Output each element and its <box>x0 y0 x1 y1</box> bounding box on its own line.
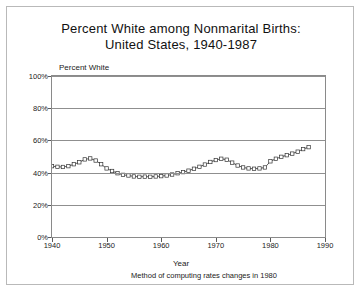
plot-area-wrapper: Percent White 0%20%40%60%80%100% 1940195… <box>7 7 355 286</box>
data-point-marker <box>269 160 272 163</box>
y-axis-title: Percent White <box>59 63 109 72</box>
data-point-marker <box>61 165 64 168</box>
x-axis-labels: 194019501960197019801990 <box>7 241 355 255</box>
data-point-marker <box>274 157 277 160</box>
data-point-marker <box>192 167 195 170</box>
figure-frame: Percent White among Nonmarital Births: U… <box>6 6 354 285</box>
data-point-marker <box>187 169 190 172</box>
data-point-marker <box>78 161 81 164</box>
x-tick-label-1980: 1980 <box>262 241 279 250</box>
data-point-marker <box>203 163 206 166</box>
x-axis-title: Year <box>7 259 355 268</box>
x-tick-label-1960: 1960 <box>153 241 170 250</box>
x-tick-label-1990: 1990 <box>317 241 334 250</box>
data-point-marker <box>263 166 266 169</box>
data-point-marker <box>52 164 54 167</box>
data-point-marker <box>291 152 294 155</box>
data-point-marker <box>143 175 146 178</box>
data-point-marker <box>138 175 141 178</box>
data-point-marker <box>165 174 168 177</box>
x-tick-label-1940: 1940 <box>44 241 61 250</box>
data-point-marker <box>83 158 86 161</box>
data-point-marker <box>127 174 130 177</box>
data-point-marker <box>241 166 244 169</box>
x-tick-label-1950: 1950 <box>98 241 115 250</box>
data-series-percent-white <box>52 76 325 237</box>
data-point-marker <box>301 147 304 150</box>
data-point-marker <box>89 157 92 160</box>
plot-area <box>51 75 326 238</box>
data-point-marker <box>209 160 212 163</box>
data-point-marker <box>67 164 70 167</box>
data-point-marker <box>132 175 135 178</box>
data-point-marker <box>99 163 102 166</box>
y-axis-tickmarks <box>7 75 57 238</box>
data-point-marker <box>285 154 288 157</box>
data-point-marker <box>236 164 239 167</box>
data-point-marker <box>198 165 201 168</box>
data-point-marker <box>307 145 310 148</box>
data-point-marker <box>105 167 108 170</box>
gridline-60 <box>52 140 325 141</box>
gridline-40 <box>52 173 325 174</box>
data-point-marker <box>230 161 233 164</box>
data-point-marker <box>252 167 255 170</box>
data-point-marker <box>56 165 59 168</box>
data-point-marker <box>94 159 97 162</box>
data-point-marker <box>149 175 152 178</box>
data-point-marker <box>247 167 250 170</box>
data-point-marker <box>154 175 157 178</box>
data-point-marker <box>258 167 261 170</box>
data-point-marker <box>280 155 283 158</box>
gridline-80 <box>52 108 325 109</box>
data-point-marker <box>160 174 163 177</box>
chart-footnote: Method of computing rates changes in 198… <box>7 271 355 280</box>
gridline-100 <box>52 76 325 77</box>
x-tick-label-1970: 1970 <box>207 241 224 250</box>
data-point-marker <box>225 158 228 161</box>
data-point-marker <box>214 158 217 161</box>
data-point-marker <box>72 163 75 166</box>
data-point-marker <box>220 157 223 160</box>
data-point-marker <box>296 150 299 153</box>
gridline-20 <box>52 205 325 206</box>
